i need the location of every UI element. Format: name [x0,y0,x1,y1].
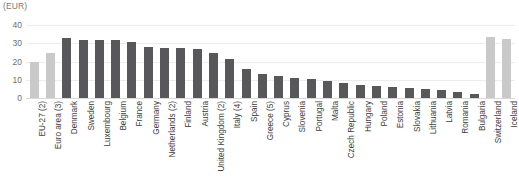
bar [242,69,251,98]
x-axis-label: Finland [184,101,193,187]
x-axis-labels: EU-27 (2)Euro area (3)DenmarkSwedenLuxem… [26,98,515,187]
x-axis-label: Luxembourg [103,101,112,187]
x-axis-label: Czech Republic [347,101,356,187]
bar [209,53,218,98]
x-axis-label: Slovakia [413,101,422,187]
x-axis-label: Germany [152,101,161,187]
x-axis-label: France [135,101,144,187]
y-tick-label-20: 20 [13,57,22,67]
bar [356,85,365,98]
plot-area: 010203040 [26,25,515,98]
bar [405,88,414,98]
bar [193,49,202,98]
x-axis-label: Switzerland [494,101,503,187]
x-axis-label: Austria [201,101,210,187]
x-axis-label: Cyprus [282,101,291,187]
x-axis-label: Greece (5) [266,101,275,187]
units-caption: (EUR) [3,1,27,11]
x-axis-label: United Kingdom (2) [217,101,226,187]
bar [323,81,332,98]
bar [46,53,55,98]
y-tick-label-30: 30 [13,38,22,48]
x-axis-label: EU-27 (2) [38,101,47,187]
bar [437,90,446,98]
x-axis-label: Sweden [87,101,96,187]
bar [111,40,120,98]
bar [62,38,71,98]
bar [127,42,136,98]
x-axis-label: Portugal [315,101,324,187]
bar [225,59,234,98]
x-axis-label: Bulgaria [478,101,487,187]
x-axis-label: Lithuania [429,101,438,187]
x-axis-label: Belgium [119,101,128,187]
bar [388,87,397,98]
bar [307,79,316,98]
bar [502,39,511,98]
bar [339,83,348,98]
y-tick-label-10: 10 [13,75,22,85]
x-axis-label: Poland [380,101,389,187]
x-axis-label: Hungary [364,101,373,187]
x-axis-label: Denmark [70,101,79,187]
bar-chart: (EUR) 010203040 EU-27 (2)Euro area (3)De… [0,0,519,187]
bar [290,78,299,98]
bar [95,40,104,98]
x-axis-label: Estonia [396,101,405,187]
x-axis-label: Spain [250,101,259,187]
bar [258,74,267,98]
x-axis-label: Malta [331,101,340,187]
bar [30,62,39,99]
x-axis-label: Euro area (3) [54,101,63,187]
y-tick-label-40: 40 [13,20,22,30]
bar [176,48,185,98]
x-axis-label: Latvia [445,101,454,187]
x-axis-label: Romania [461,101,470,187]
bar [160,48,169,98]
x-axis-label: Netherlands (2) [168,101,177,187]
bar [144,47,153,98]
y-tick-label-0: 0 [17,93,22,103]
bar [79,40,88,98]
bar [421,89,430,98]
x-axis-label: Italy (4) [233,101,242,187]
bar [486,37,495,98]
x-axis-label: Iceland [510,101,519,187]
bar [372,86,381,98]
bar [274,76,283,98]
x-axis-label: Slovenia [298,101,307,187]
gridline-40 [26,25,515,26]
